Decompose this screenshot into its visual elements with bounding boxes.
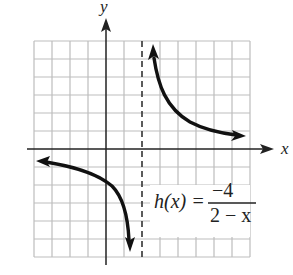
function-denominator: 2 − x <box>210 204 251 226</box>
y-axis-label: y <box>98 0 108 16</box>
function-name: h(x) = <box>154 190 205 213</box>
function-graph: y x h(x) = −4 2 − x <box>0 0 293 275</box>
curve-right-branch <box>154 58 236 135</box>
x-axis-label: x <box>280 139 289 158</box>
function-numerator: −4 <box>212 179 233 201</box>
